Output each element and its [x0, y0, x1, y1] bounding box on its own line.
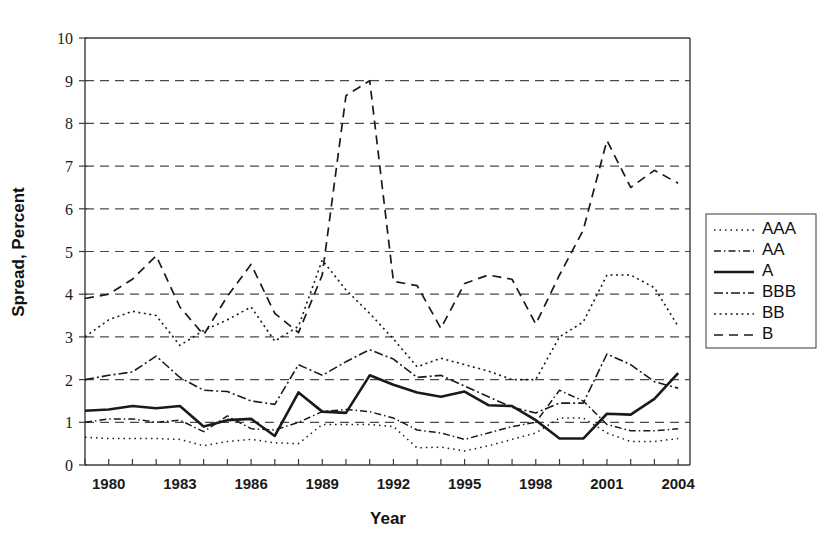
x-tick-label: 1998: [519, 475, 552, 492]
x-tick-label: 1995: [448, 475, 481, 492]
spread-percent-line-chart: 012345678910 198019831986198919921995199…: [0, 0, 828, 551]
y-tick-label: 1: [65, 414, 73, 431]
chart-background: [0, 0, 828, 551]
x-tick-label: 1980: [92, 475, 125, 492]
x-tick-label: 1983: [163, 475, 196, 492]
chart-container: 012345678910 198019831986198919921995199…: [0, 0, 828, 551]
legend-border: [706, 214, 816, 348]
y-tick-label: 0: [65, 457, 73, 474]
y-tick-label: 8: [65, 115, 73, 132]
x-axis-tick-labels: 198019831986198919921995199820012004: [92, 475, 695, 492]
x-tick-label: 1986: [234, 475, 267, 492]
y-tick-label: 7: [65, 158, 73, 175]
legend-label-b: B: [762, 324, 773, 343]
y-axis-title: Spread, Percent: [9, 187, 28, 317]
legend-label-bbb: BBB: [762, 282, 796, 301]
legend-label-a: A: [762, 261, 774, 280]
x-tick-label: 1992: [377, 475, 410, 492]
y-tick-label: 5: [65, 244, 73, 261]
legend-label-aa: AA: [762, 240, 785, 259]
x-axis-title: Year: [370, 509, 406, 528]
y-tick-label: 9: [65, 73, 73, 90]
legend-label-aaa: AAA: [762, 219, 797, 238]
legend-label-bb: BB: [762, 303, 785, 322]
chart-legend: AAAAAABBBBBB: [706, 214, 816, 348]
x-tick-label: 2004: [661, 475, 695, 492]
x-tick-label: 1989: [306, 475, 339, 492]
y-tick-label: 2: [65, 372, 73, 389]
y-tick-label: 3: [65, 329, 73, 346]
y-tick-label: 4: [65, 286, 73, 303]
y-tick-label: 10: [57, 30, 73, 47]
x-tick-label: 2001: [590, 475, 623, 492]
y-tick-label: 6: [65, 201, 73, 218]
